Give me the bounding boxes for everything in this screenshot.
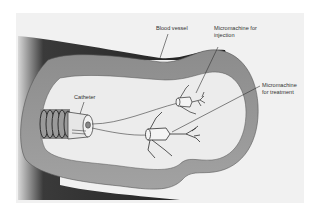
- label-blood-vessel-text: Blood vessel: [156, 25, 188, 31]
- label-blood-vessel: Blood vessel: [156, 25, 188, 32]
- leader-blood-vessel: [160, 34, 168, 58]
- label-micromachine-treatment: Micromachine for treatment: [262, 82, 297, 95]
- label-injection-line2: injection: [214, 32, 257, 39]
- label-micromachine-injection: Micromachine for injection: [214, 25, 257, 38]
- label-catheter: Catheter: [74, 94, 95, 101]
- label-catheter-text: Catheter: [74, 94, 95, 100]
- label-injection-line1: Micromachine for: [214, 25, 257, 32]
- diagram-canvas: Blood vessel Micromachine for injection …: [0, 0, 317, 213]
- label-treatment-line1: Micromachine: [262, 82, 297, 89]
- vessel-illustration: [0, 0, 317, 213]
- label-treatment-line2: for treatment: [262, 89, 297, 96]
